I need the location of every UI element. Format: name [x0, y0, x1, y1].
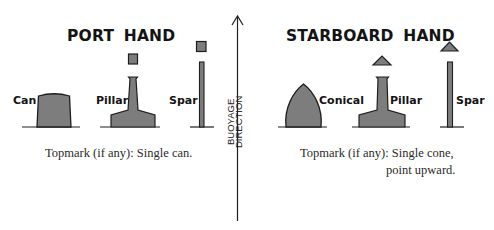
- port-caption-prefix: Topmark (if any):: [45, 146, 134, 160]
- can-buoy-icon: [37, 94, 71, 127]
- conical-buoy-icon: [286, 84, 322, 127]
- starboard-spar-label: Spar: [456, 94, 485, 107]
- port-spar-buoy: [190, 42, 214, 128]
- buoyage-label-line2: DIRECTION: [235, 96, 243, 148]
- starboard-spar-buoy: [440, 42, 464, 127]
- port-spar-label: Spar: [169, 94, 198, 107]
- can-topmark-icon: [197, 42, 207, 52]
- starboard-pillar-label: Pillar: [390, 94, 422, 107]
- conical-label: Conical: [319, 94, 364, 107]
- starboard-topmark-caption: Topmark (if any): Single cone, point upw…: [300, 145, 455, 179]
- starboard-hand-title: STARBOARD HAND: [286, 27, 455, 45]
- spar-buoy-icon: [448, 62, 453, 127]
- port-caption-text: Single can.: [137, 146, 193, 160]
- spar-buoy-icon: [200, 62, 205, 127]
- starboard-caption-text-line1: Single cone,: [392, 146, 454, 160]
- starboard-caption-prefix: Topmark (if any):: [300, 146, 389, 160]
- buoyage-direction-label: BUOYAGE DIRECTION: [227, 96, 243, 148]
- cone-topmark-icon: [373, 56, 391, 65]
- buoyage-diagram: PORT HAND STARBOARD HAND Can Pillar Spar…: [0, 0, 494, 230]
- starboard-caption-text-line2: point upward.: [300, 162, 455, 179]
- port-hand-title: PORT HAND: [67, 27, 175, 45]
- port-pillar-label: Pillar: [96, 94, 128, 107]
- starboard-pillar-buoy: [352, 56, 410, 127]
- can-topmark-icon: [129, 54, 138, 64]
- port-pillar-buoy: [100, 54, 160, 127]
- can-label: Can: [13, 94, 36, 107]
- port-topmark-caption: Topmark (if any): Single can.: [45, 145, 192, 162]
